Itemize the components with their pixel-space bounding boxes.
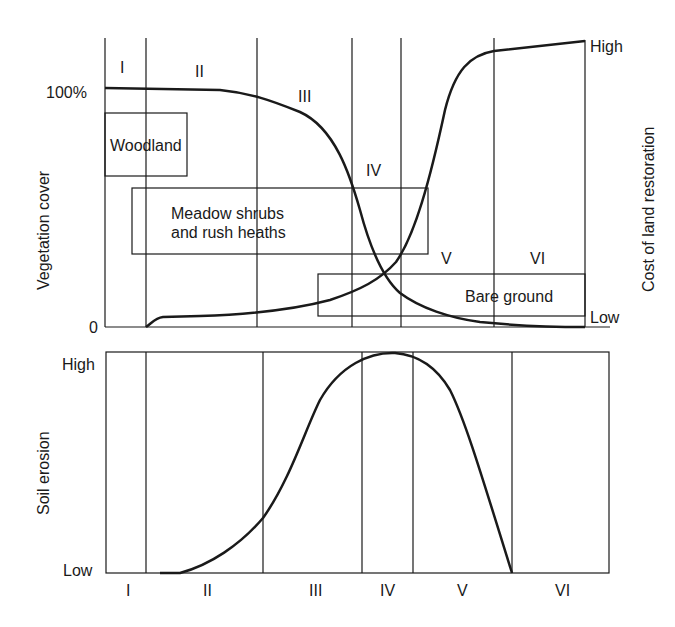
vegetation-cover-axis-label: Vegetation cover [35, 170, 52, 290]
zone-label-III: III [298, 88, 311, 105]
zone-label-V: V [441, 250, 452, 267]
erosion-tick-high: High [62, 356, 95, 373]
tick-high-cost: High [590, 38, 623, 55]
bare-ground-label: Bare ground [465, 288, 553, 305]
restoration-cost-curve [146, 41, 585, 327]
zone-label-IV: IV [366, 162, 381, 179]
bottom-zone-label-IV: IV [380, 582, 395, 599]
bottom-panel-grid [106, 352, 609, 573]
tick-zero: 0 [89, 319, 98, 336]
bottom-zone-label-III: III [309, 582, 322, 599]
bottom-zone-label-II: II [203, 582, 212, 599]
soil-erosion-curve [160, 353, 512, 573]
tick-100-percent: 100% [46, 84, 87, 101]
bottom-zone-label-I: I [126, 582, 130, 599]
tick-low-cost: Low [590, 309, 620, 326]
zone-label-VI: VI [530, 250, 545, 267]
woodland-label: Woodland [110, 137, 182, 154]
soil-erosion-axis-label: Soil erosion [35, 431, 52, 515]
top-panel-grid [105, 38, 610, 327]
erosion-tick-low: Low [63, 562, 93, 579]
meadow-label-line2: and rush heaths [171, 224, 286, 241]
restoration-cost-axis-label: Cost of land restoration [640, 127, 657, 292]
diagram-canvas: 100% 0 High Low Vegetation cover Cost of… [0, 0, 675, 627]
zone-label-I: I [120, 59, 124, 76]
zone-label-II: II [195, 63, 204, 80]
bottom-zone-label-V: V [457, 582, 468, 599]
meadow-label-line1: Meadow shrubs [171, 205, 284, 222]
bottom-zone-label-VI: VI [555, 582, 570, 599]
